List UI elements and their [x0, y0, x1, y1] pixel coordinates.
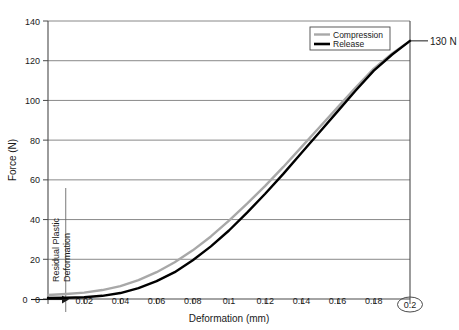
x-tick-label-0.04: 0.04: [112, 296, 130, 306]
y-tick-label-60: 60: [30, 175, 40, 185]
x-tick-label-0.06: 0.06: [148, 296, 166, 306]
residual-deformation-label-line2: Deformation: [62, 233, 72, 282]
x-tick-label-0.08: 0.08: [184, 296, 202, 306]
legend-label-compression: Compression: [333, 30, 383, 40]
y-axis-tick-labels: 140 120 100 80 60 40 20 0: [25, 17, 40, 305]
y-tick-label-40: 40: [30, 215, 40, 225]
x-tick-label-0.1: 0.1: [223, 296, 236, 306]
x-tick-label-0.16: 0.16: [329, 296, 347, 306]
x-axis-title: Deformation (mm): [189, 313, 270, 324]
y-tick-label-100: 100: [25, 96, 40, 106]
x-tick-label-0: 0: [22, 295, 27, 305]
x-tick-label-0.14: 0.14: [293, 296, 311, 306]
residual-deformation-label-line1: Residual Plastic: [51, 217, 61, 282]
x-tick-label-0.2: 0.2: [404, 300, 417, 310]
y-tick-label-80: 80: [30, 136, 40, 146]
plot-area-background: [48, 21, 410, 299]
y-tick-label-140: 140: [25, 17, 40, 27]
chart-legend: Compression Release: [310, 27, 390, 50]
endpoint-callout-label: 130 N: [430, 36, 457, 47]
x-tick-label-0.18: 0.18: [365, 296, 383, 306]
y-tick-label-120: 120: [25, 56, 40, 66]
legend-label-release: Release: [333, 39, 364, 49]
y-axis-ticks: [43, 21, 48, 299]
chart-canvas: 140 120 100 80 60 40 20 0 Force (N): [0, 0, 459, 330]
y-axis-title: Force (N): [7, 139, 18, 181]
endpoint-callout: 130 N: [410, 36, 457, 47]
x-tick-label-0.12: 0.12: [256, 296, 274, 306]
y-tick-label-20: 20: [30, 255, 40, 265]
force-deformation-chart: 140 120 100 80 60 40 20 0 Force (N): [0, 0, 459, 330]
